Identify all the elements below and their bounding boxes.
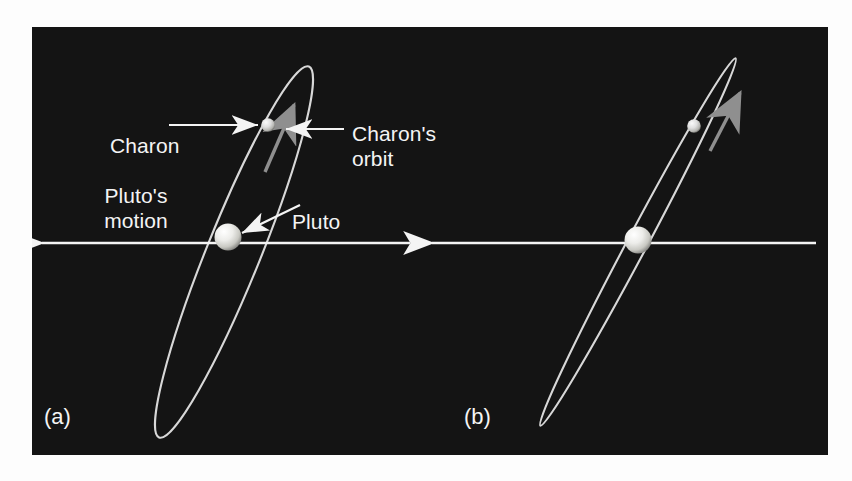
panel-b-pluto-body: [625, 227, 652, 254]
panel-a-charon-body: [261, 118, 275, 132]
panel-b-orbit-direction-arrow: [710, 93, 740, 151]
label-plutos-motion: Pluto'smotion: [68, 183, 204, 233]
panel-tag-a: (a): [44, 405, 71, 429]
figure-root: Charon Charon'sorbit Pluto'smotion Pluto…: [0, 0, 852, 481]
panel-b-charon-body: [687, 119, 701, 133]
label-charon: Charon: [110, 133, 179, 158]
label-charons-orbit-line1: Charon's: [352, 122, 436, 145]
panel-tag-b: (b): [464, 405, 491, 429]
label-charons-orbit: Charon'sorbit: [352, 121, 436, 171]
panel-a-pluto-body: [215, 224, 242, 251]
panel-a-graphics: [42, 56, 410, 447]
panel-b-graphics: [432, 54, 816, 431]
label-plutos-motion-line2: motion: [104, 209, 168, 232]
orbit-diagram-svg: [32, 27, 828, 455]
astronomy-figure-panel: Charon Charon'sorbit Pluto'smotion Pluto…: [32, 27, 828, 455]
label-plutos-motion-line1: Pluto's: [104, 184, 167, 207]
panel-a-charon-orbit: [134, 56, 334, 447]
label-pluto: Pluto: [292, 209, 340, 234]
label-charons-orbit-line2: orbit: [352, 147, 393, 170]
